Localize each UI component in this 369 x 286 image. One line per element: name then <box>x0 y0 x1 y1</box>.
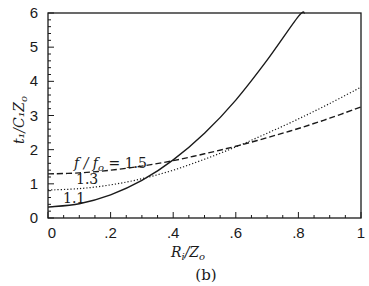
annotation-1-1: 1.1 <box>63 190 85 206</box>
x-axis-label: Ri/Zo <box>170 244 205 262</box>
x-tick-label: .6 <box>230 224 243 241</box>
axis-ticks <box>48 13 361 218</box>
y-axis-label: t₁/C₁Zo <box>11 96 29 144</box>
x-tick-label: .4 <box>167 224 180 241</box>
y-tick-label: 3 <box>30 107 38 124</box>
y-tick-label: 2 <box>30 141 38 158</box>
x-tick-label: .2 <box>104 224 117 241</box>
plot-frame <box>48 13 361 218</box>
y-tick-label: 5 <box>30 38 38 55</box>
y-tick-label: 6 <box>30 4 38 21</box>
x-tick-label: 0 <box>48 224 56 241</box>
y-tick-label: 1 <box>30 175 38 192</box>
annotation-1-3: 1.3 <box>76 171 98 187</box>
x-tick-label: .8 <box>292 224 305 241</box>
x-tick-label: 1 <box>357 224 365 241</box>
y-tick-label: 4 <box>30 72 38 89</box>
figure-caption: (b) <box>195 266 216 284</box>
y-tick-label: 0 <box>30 209 38 226</box>
line-chart: 01234560.2.4.6.81 t₁/C₁Zo Ri/Zo (b) f / … <box>0 0 369 286</box>
